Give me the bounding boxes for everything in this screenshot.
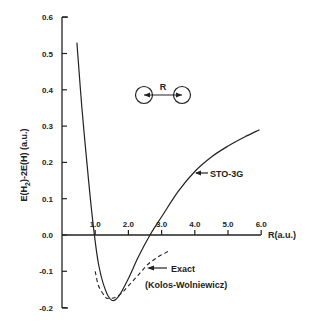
x-axis-label: R(a.u.) (268, 230, 296, 240)
y-tick-label: 0.1 (42, 195, 54, 204)
x-tick-label: 1.0 (90, 220, 102, 229)
sto-3g-annotation-arrow (195, 171, 208, 176)
x-tick-label: 6.0 (256, 220, 268, 229)
x-tick-label: 2.0 (123, 220, 135, 229)
sto-3g-label: STO-3G (210, 169, 243, 179)
y-tick-label: -0.2 (39, 304, 53, 313)
molecule-r-label: R (160, 82, 167, 92)
y-tick-label: 0.5 (42, 50, 54, 59)
y-tick-label: 0.3 (42, 122, 54, 131)
arrow-left-icon (144, 93, 150, 98)
y-tick-label: -0.1 (39, 267, 53, 276)
y-axis-label: E(H2)-2E(H) (a.u.) (19, 129, 31, 202)
arrow-left-icon (195, 171, 201, 176)
y-tick-label: 0.2 (42, 158, 54, 167)
chart-canvas: 0.60.50.40.30.20.10.0-0.1-0.2 1.02.03.04… (0, 0, 314, 326)
x-tick-label: 5.0 (222, 220, 234, 229)
axes (62, 17, 261, 308)
y-tick-label: 0.4 (42, 86, 54, 95)
potential-energy-chart: 0.60.50.40.30.20.10.0-0.1-0.2 1.02.03.04… (0, 0, 314, 326)
exact-annotation-arrow (147, 266, 167, 271)
x-tick-label: 3.0 (156, 220, 168, 229)
y-tick-label: 0.0 (42, 231, 54, 240)
kolos-label: (Kolos-Wolniewicz) (145, 280, 227, 290)
y-ticks: 0.60.50.40.30.20.10.0-0.1-0.2 (39, 13, 67, 312)
x-ticks: 1.02.03.04.05.06.0 (90, 220, 268, 235)
arrow-left-icon (147, 266, 154, 271)
y-tick-label: 0.6 (42, 13, 54, 22)
arrow-right-icon (176, 93, 182, 98)
x-tick-label: 4.0 (189, 220, 201, 229)
exact-label: Exact (171, 264, 195, 274)
